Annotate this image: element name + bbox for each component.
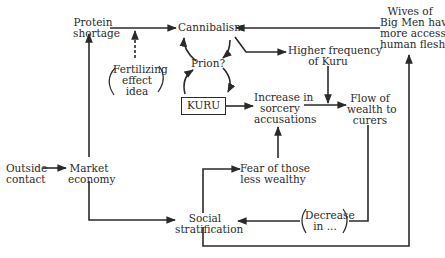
edge-market-to-stratification — [89, 181, 175, 220]
node-text: KURU — [187, 99, 220, 111]
node-text: in ... — [305, 221, 345, 232]
node-text: stratification — [175, 224, 235, 235]
edge-cannibalism-to-prion — [223, 40, 230, 58]
node-text: less wealthy — [240, 174, 306, 185]
node-text: contact — [6, 174, 42, 185]
edge-flow-to-decrease — [349, 125, 368, 221]
node-text: economy — [68, 174, 110, 185]
node-text: idea — [113, 86, 161, 97]
node-fertilizing-effect: Fertilizing effect idea — [113, 64, 161, 97]
edge-stratification-to-fear — [203, 169, 240, 213]
node-outside-contact: Outside contact — [6, 163, 42, 185]
node-prion: Prion? — [190, 58, 226, 69]
node-kuru: KURU — [181, 97, 226, 115]
node-fear-less-wealthy: Fear of those less wealthy — [240, 163, 306, 185]
node-text: Prion? — [190, 58, 226, 69]
node-wives-big-men: Wives of Big Men have more access to hum… — [380, 6, 440, 50]
node-cannibalism: Cannibalism — [178, 22, 238, 33]
node-text: Cannibalism — [178, 22, 238, 33]
node-text: curers — [347, 115, 393, 126]
node-decrease-in: Decrease in ... — [305, 210, 345, 232]
node-text: shortage — [73, 28, 113, 39]
node-protein-shortage: Protein shortage — [73, 17, 113, 39]
node-text: accusations — [254, 114, 306, 125]
node-market-economy: Market economy — [68, 163, 110, 185]
edge-cannibalism-to-higher-frequency — [235, 37, 286, 52]
node-higher-frequency-kuru: Higher frequency of Kuru — [288, 45, 368, 67]
node-text: human flesh — [380, 39, 440, 50]
node-text: of Kuru — [288, 56, 368, 67]
node-flow-wealth: Flow of wealth to curers — [347, 93, 393, 126]
edge-prion-to-kuru — [223, 68, 230, 92]
node-increase-sorcery: Increase in sorcery accusations — [254, 92, 306, 125]
edge-kuru-to-prion — [184, 70, 193, 94]
node-social-stratification: Social stratification — [175, 213, 235, 235]
